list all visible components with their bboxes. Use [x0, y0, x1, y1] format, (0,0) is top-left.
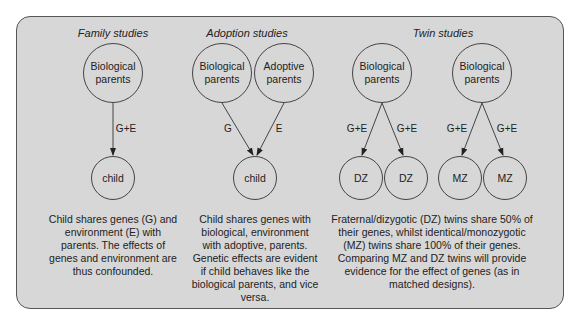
node-label: DZ	[399, 172, 413, 185]
node-label: Adoptive parents	[255, 60, 313, 86]
twin-edge-label-dz-1: G+E	[347, 123, 367, 134]
node-label: MZ	[452, 172, 467, 185]
twin-dz-biological-parents-node: Biological parents	[352, 43, 412, 103]
twin-mz-node-1: MZ	[438, 156, 482, 200]
adoption-biological-parents-node: Biological parents	[192, 43, 252, 103]
twin-dz-node-2: DZ	[384, 156, 428, 200]
twin-mz-biological-parents-node: Biological parents	[452, 43, 512, 103]
twin-caption: Fraternal/dizygotic (DZ) twins share 50%…	[327, 213, 537, 291]
adoption-edge-label-e: E	[276, 123, 283, 134]
adoption-caption: Child shares genes with biological, envi…	[191, 213, 319, 304]
twin-studies-title: Twin studies	[413, 27, 473, 39]
adoption-adoptive-parents-node: Adoptive parents	[254, 43, 314, 103]
node-label: child	[102, 172, 124, 185]
family-edge-label: G+E	[116, 123, 136, 134]
family-studies-title: Family studies	[78, 27, 148, 39]
node-label: Biological parents	[453, 60, 511, 86]
family-child-node: child	[91, 156, 135, 200]
node-label: Biological parents	[84, 60, 142, 86]
family-caption: Child shares genes (G) and environment (…	[48, 213, 178, 278]
family-biological-parents-node: Biological parents	[83, 43, 143, 103]
twin-edge-label-mz-1: G+E	[447, 123, 467, 134]
twin-edge-label-mz-2: G+E	[497, 123, 517, 134]
twin-edge-label-dz-2: G+E	[397, 123, 417, 134]
adoption-studies-title: Adoption studies	[206, 27, 287, 39]
adoption-child-node: child	[233, 156, 277, 200]
twin-mz-node-2: MZ	[483, 156, 527, 200]
node-label: DZ	[354, 172, 368, 185]
node-label: Biological parents	[193, 60, 251, 86]
node-label: Biological parents	[353, 60, 411, 86]
adoption-edge-label-g: G	[224, 123, 232, 134]
twin-dz-node-1: DZ	[339, 156, 383, 200]
node-label: MZ	[497, 172, 512, 185]
node-label: child	[244, 172, 266, 185]
